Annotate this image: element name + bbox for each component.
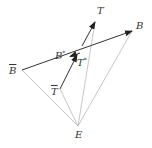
line-E-Tbar xyxy=(60,89,78,126)
line-E-Bbar xyxy=(22,70,78,126)
label-T: T xyxy=(97,6,104,16)
label-T-star-text: T xyxy=(77,57,84,68)
arrow-to-Bstar xyxy=(70,53,80,57)
label-T-star-sup: * xyxy=(84,56,87,63)
label-B: B xyxy=(136,21,143,31)
label-B-star: B* xyxy=(55,50,65,61)
diagram-canvas: B B T B* T* T E xyxy=(0,0,152,148)
label-T-bar: T xyxy=(51,87,58,97)
label-B-bar: B xyxy=(9,66,16,76)
label-T-star: T* xyxy=(77,57,87,68)
diagram-svg xyxy=(0,0,152,148)
label-E: E xyxy=(75,130,82,140)
label-B-star-sup: * xyxy=(62,49,65,56)
